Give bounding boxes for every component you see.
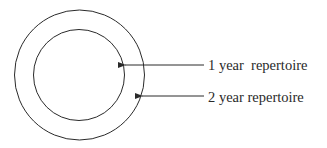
repertoire-diagram: 1 year repertoire 2 year repertoire	[0, 0, 327, 148]
label-2-year-repertoire: 2 year repertoire	[208, 89, 304, 105]
inner-circle-1-year	[34, 30, 125, 121]
label-1-year-repertoire: 1 year repertoire	[208, 57, 307, 73]
